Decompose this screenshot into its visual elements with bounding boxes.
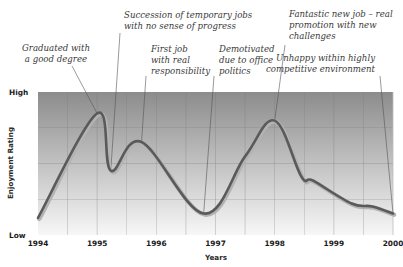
y-axis-label: Enjoyment Rating [6, 127, 15, 199]
annotation-text: Graduated with [22, 43, 90, 53]
annotation-text: with real [151, 55, 190, 65]
annotation-text: a good degree [25, 54, 87, 64]
x-tick-1996: 1996 [146, 239, 167, 248]
annotation-1: Succession of temporary jobswith no sens… [124, 10, 253, 31]
x-axis-label: Years [204, 253, 227, 262]
annotation-text: Fantastic new job – real [288, 9, 393, 19]
y-tick-high: High [9, 88, 28, 97]
annotation-text: Succession of temporary jobs [124, 10, 253, 20]
career-enjoyment-chart: Graduated witha good degreeSuccession of… [0, 0, 403, 267]
annotation-text: promotion with new [289, 20, 377, 30]
x-tick-2000: 2000 [383, 239, 403, 248]
annotation-text: challenges [289, 31, 336, 41]
x-tick-1997: 1997 [205, 239, 226, 248]
annotation-text: responsibility [151, 66, 210, 76]
x-tick-1998: 1998 [264, 239, 285, 248]
annotation-text: Demotivated [218, 44, 275, 54]
y-tick-low: Low [9, 231, 26, 240]
x-tick-1999: 1999 [324, 239, 345, 248]
x-tick-1995: 1995 [87, 239, 108, 248]
x-axis-ticks: 1994199519961997199819992000 [28, 239, 403, 248]
annotation-text: with no sense of progress [124, 21, 236, 31]
annotations: Graduated witha good degreeSuccession of… [22, 9, 393, 76]
annotation-5: Unhappy within highlycompetitive environ… [266, 53, 376, 74]
annotation-text: First job [150, 44, 188, 54]
annotation-4: Fantastic new job – realpromotion with n… [288, 9, 393, 41]
annotation-2: First jobwith realresponsibility [150, 44, 210, 76]
annotation-text: Unhappy within highly [276, 53, 375, 63]
annotation-text: competitive environment [266, 64, 376, 74]
annotation-0: Graduated witha good degree [22, 43, 90, 64]
annotation-text: politics [219, 66, 251, 76]
x-tick-1994: 1994 [28, 239, 49, 248]
